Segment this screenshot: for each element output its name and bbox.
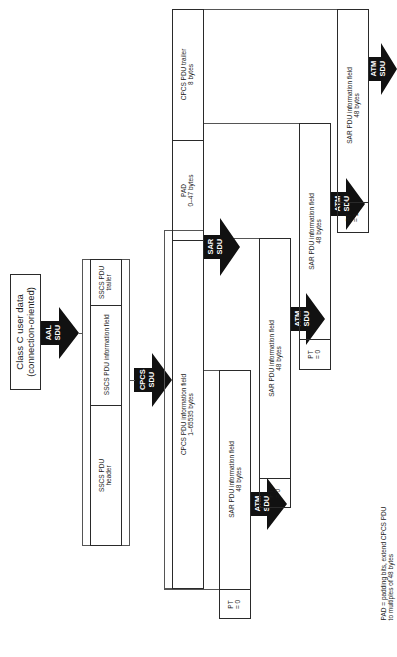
atm-sdu-arrow-icon: ATMSDU xyxy=(369,43,397,95)
connector-line xyxy=(130,380,135,381)
sar-pdu-3-info: SAR PDU information field48 bytes xyxy=(299,123,331,339)
sar-pdu-3-pt: PT= 0 xyxy=(299,339,331,370)
cpcs-pdu-pad: PAD0–47 bytes xyxy=(172,140,204,240)
cpcs-pdu-info-field: CPCS PDU information field1–65535 bytes xyxy=(172,240,204,589)
footnote: PAD = padding bits, extend CPCS PDU to m… xyxy=(379,470,397,657)
sar-pdu-4-info: SAR PDU information field48 bytes xyxy=(337,9,369,202)
sscs-pdu-header: SSCS PDUheader xyxy=(90,405,122,546)
sar-pdu-2-info: SAR PDU information field48 bytes xyxy=(259,238,291,478)
class-c-user-data-box: Class C user data (connection-oriented) xyxy=(10,274,41,390)
sar-pdu-1-pt: PT= 0 xyxy=(219,589,251,619)
bracket-line xyxy=(204,123,299,124)
class-c-title: Class C user data xyxy=(15,287,26,377)
sar-pdu-1-info: SAR PDU information field48 bytes xyxy=(219,370,251,589)
sscs-pdu-info-field: SSCS PDU information field xyxy=(90,305,122,405)
sar-pdu-2-pt: PT= 0 xyxy=(259,478,291,508)
sar-pdu-4-pt: PT= 1 xyxy=(337,202,369,233)
bracket-line xyxy=(204,370,219,371)
class-c-subtitle: (connection-oriented) xyxy=(26,287,37,377)
bracket-line xyxy=(164,589,219,590)
sar-sdu-arrow-icon: SARSDU xyxy=(204,218,240,276)
bracket-line xyxy=(204,9,337,10)
aal-sdu-arrow-icon: AALSDU xyxy=(41,307,79,359)
cpcs-pdu-trailer: CPCS PDU trailer8 bytes xyxy=(172,9,204,140)
sscs-pdu-trailer: SSCS PDUtrailer xyxy=(90,259,122,305)
